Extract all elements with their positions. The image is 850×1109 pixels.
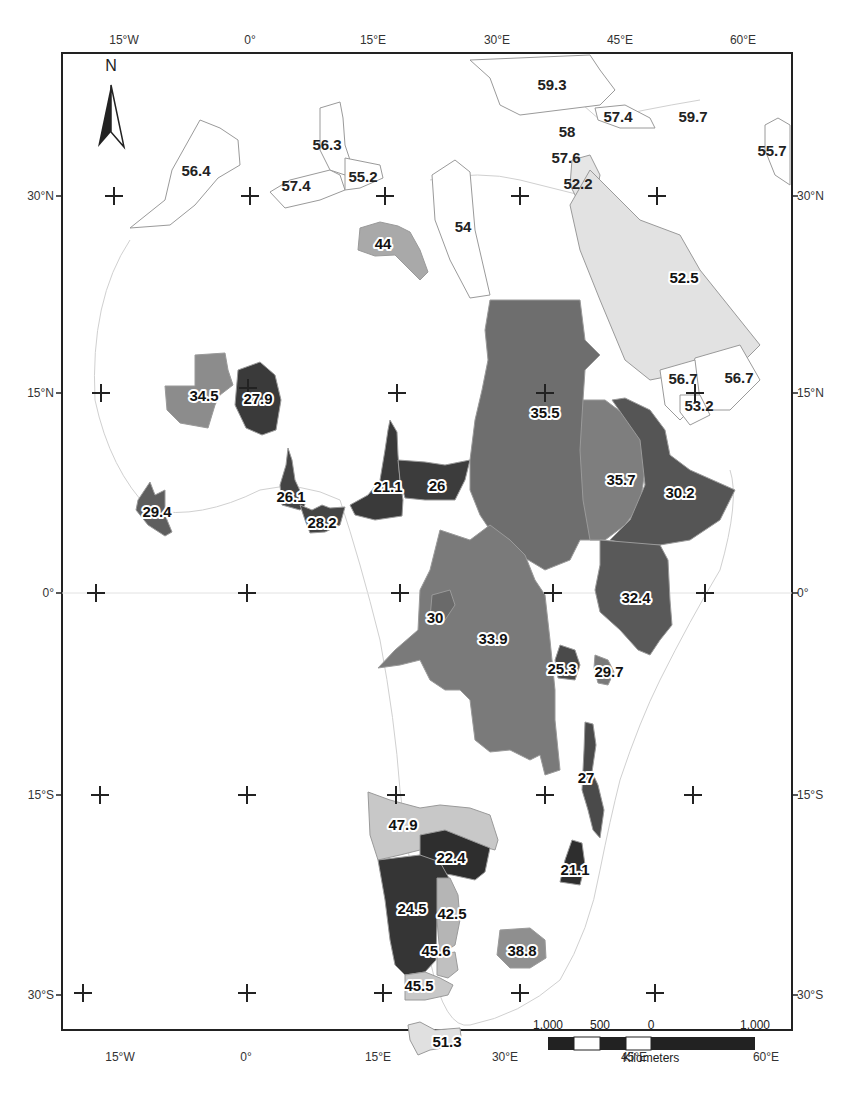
- region-label-r1: 59.3: [537, 76, 566, 93]
- region-label-r39: 45.6: [421, 942, 450, 959]
- region-label-r11: 55.2: [348, 168, 377, 185]
- scale-bar: [548, 1037, 755, 1050]
- region-label-r16: 56.7: [668, 370, 697, 387]
- region-label-r13: 54: [455, 218, 472, 235]
- region-label-r8: 56.4: [181, 162, 211, 179]
- region-label-r38: 42.5: [437, 905, 466, 922]
- region-label-r36: 21.1: [560, 861, 589, 878]
- region-label-r32: 29.7: [594, 663, 623, 680]
- region-label-r23: 29.4: [142, 503, 172, 520]
- region-label-r7: 52.2: [563, 175, 592, 192]
- region-label-r22: 30.2: [665, 484, 694, 501]
- region-label-r31: 25.3: [547, 660, 576, 677]
- choropleth-map: 15°W 0° 15°E 30°E 45°E 60°E 15°W 0° 15°E…: [0, 0, 850, 1109]
- region-label-r9: 56.3: [312, 136, 341, 153]
- region-label-r42: 51.3: [432, 1033, 461, 1050]
- region-label-r14: 52.5: [669, 269, 698, 286]
- north-arrow-icon: [98, 85, 124, 147]
- region-label-r34: 47.9: [388, 816, 417, 833]
- region-label-r37: 24.5: [397, 900, 426, 917]
- region-label-r40: 38.8: [507, 942, 536, 959]
- region-label-r10: 57.4: [281, 177, 311, 194]
- region-label-r2: 57.4: [603, 108, 633, 125]
- region-label-r4: 55.7: [757, 142, 786, 159]
- region-label-r20: 35.5: [530, 404, 559, 421]
- region-label-r12: 44: [375, 235, 392, 252]
- region-label-r17: 53.2: [684, 397, 713, 414]
- region-label-r21: 35.7: [606, 471, 635, 488]
- region-label-r19: 27.9: [243, 390, 272, 407]
- region-r26: [350, 420, 403, 520]
- region-label-r27: 26: [429, 477, 446, 494]
- region-label-r29: 30: [427, 609, 444, 626]
- region-label-r24: 26.1: [276, 488, 305, 505]
- region-label-r5: 58: [559, 123, 576, 140]
- scale-label-500: 500: [590, 1018, 610, 1032]
- region-label-r33: 27: [578, 769, 595, 786]
- scale-label-0: 0: [648, 1018, 655, 1032]
- region-label-r6: 57.6: [551, 149, 580, 166]
- region-label-r26: 21.1: [373, 478, 402, 495]
- scale-label-1000-right: 1,000: [740, 1018, 770, 1032]
- region-label-r28: 32.4: [621, 589, 651, 606]
- scale-label-1000-left: 1,000: [533, 1018, 563, 1032]
- scale-unit-label: Kilometers: [623, 1051, 680, 1065]
- region-r12: [358, 222, 428, 280]
- region-label-r3: 59.7: [678, 108, 707, 125]
- region-label-r18: 34.5: [189, 387, 218, 404]
- region-label-r25: 28.2: [307, 514, 336, 531]
- map-canvas: 59.3 57.4 59.7 55.7 58 57.6 52.2 56.4 56…: [0, 0, 850, 1109]
- region-label-r30: 33.9: [478, 630, 507, 647]
- north-arrow-label: N: [105, 57, 117, 75]
- region-label-r41: 45.5: [404, 977, 433, 994]
- region-label-r15: 56.7: [724, 369, 753, 386]
- region-label-r35: 22.4: [436, 849, 466, 866]
